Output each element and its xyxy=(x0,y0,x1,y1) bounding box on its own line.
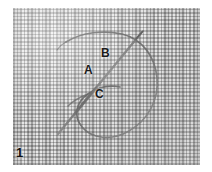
stitch-label-c: C xyxy=(95,88,104,100)
stitch-label-a: A xyxy=(84,64,93,76)
figure-number: 1 xyxy=(16,146,23,159)
stitch-label-b: B xyxy=(101,47,110,59)
stitch-illustration-overlay xyxy=(0,0,212,172)
figure-panel: A B C 1 xyxy=(0,0,212,172)
